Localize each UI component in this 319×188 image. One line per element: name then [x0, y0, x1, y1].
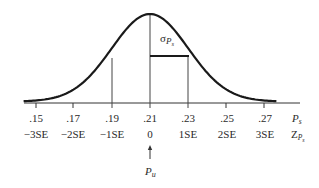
svg-text:.25: .25: [220, 112, 234, 124]
svg-text:.23: .23: [181, 112, 195, 124]
p-axis-label: Ps: [291, 112, 302, 126]
svg-text:.15: .15: [29, 112, 43, 124]
svg-text:.17: .17: [66, 112, 80, 124]
pu-label: Pu: [144, 165, 156, 179]
p-tick-labels: .15 .17 .19 .21 .23 .25 .27: [29, 112, 272, 124]
z-tick-labels: −3SE −2SE −1SE 0 1SE 2SE 3SE: [24, 128, 275, 140]
normal-distribution-diagram: σPs .15 .17 .19 .21 .23 .25 .27 Ps −3SE …: [0, 0, 319, 188]
svg-text:1SE: 1SE: [179, 128, 198, 140]
svg-text:−2SE: −2SE: [61, 128, 86, 140]
svg-text:.21: .21: [143, 112, 157, 124]
svg-text:2SE: 2SE: [218, 128, 237, 140]
sigma-label: σPs: [160, 32, 174, 47]
svg-text:.19: .19: [105, 112, 119, 124]
svg-text:3SE: 3SE: [256, 128, 275, 140]
svg-text:0: 0: [147, 128, 153, 140]
svg-text:−3SE: −3SE: [24, 128, 49, 140]
up-arrow-icon: [148, 145, 152, 159]
svg-text:.27: .27: [258, 112, 272, 124]
svg-text:−1SE: −1SE: [100, 128, 125, 140]
z-axis-label: ZPs: [291, 128, 305, 143]
